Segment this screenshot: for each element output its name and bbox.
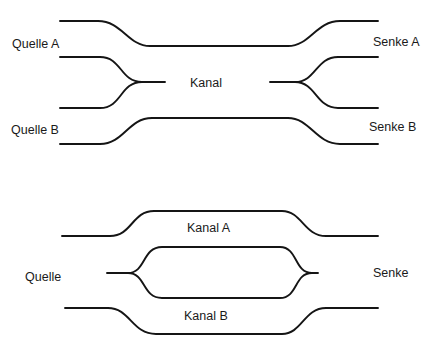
label-channel-b: Kanal B — [184, 310, 228, 323]
bottom-figure-split-upper — [107, 247, 318, 273]
bottom-figure-split-lower — [128, 273, 312, 298]
top-figure-left-merge-upper — [60, 57, 165, 82]
top-figure-left-merge-lower — [60, 82, 142, 108]
label-sink-a: Senke A — [373, 36, 420, 49]
top-figure-right-split-upper — [270, 57, 378, 82]
label-source-b: Quelle B — [11, 124, 59, 137]
top-figure-right-split-lower — [295, 82, 378, 108]
top-figure-upper-line — [60, 21, 378, 46]
label-sink: Senke — [373, 267, 408, 280]
label-channel: Kanal — [190, 77, 222, 90]
label-sink-b: Senke B — [369, 121, 416, 134]
top-figure-lower-line — [60, 118, 378, 144]
label-source: Quelle — [25, 271, 61, 284]
label-source-a: Quelle A — [12, 38, 59, 51]
label-channel-a: Kanal A — [187, 222, 230, 235]
diagram-lines — [0, 0, 436, 358]
